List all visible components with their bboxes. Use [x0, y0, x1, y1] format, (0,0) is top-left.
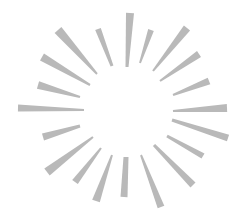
sunburst-ray	[126, 13, 135, 67]
sunburst-ray	[72, 147, 102, 184]
sunburst-ray	[173, 78, 211, 96]
sunburst-ray	[172, 119, 230, 142]
sunburst-canvas: Sunburst illustration	[0, 0, 247, 217]
sunburst-ray	[173, 104, 227, 112]
sunburst-ray	[121, 157, 129, 197]
sunburst-ray	[139, 29, 154, 63]
sunburst-ray	[42, 125, 80, 141]
sunburst-ray	[37, 81, 80, 98]
sunburst-ray	[95, 28, 113, 67]
sunburst-ray	[18, 105, 84, 112]
sunburst-ray	[166, 135, 204, 159]
sunburst-ray	[92, 155, 113, 203]
sunburst-icon	[0, 0, 247, 217]
sunburst-ray	[140, 155, 164, 209]
